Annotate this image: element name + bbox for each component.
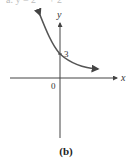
origin-label: 0: [51, 81, 56, 91]
figure-caption: (b): [0, 145, 132, 157]
x-axis-label: x: [120, 72, 126, 83]
exponential-curve: [40, 15, 98, 69]
y-intercept-label: 3: [64, 49, 69, 59]
graph: y x 0 3: [0, 0, 132, 164]
y-axis-label: y: [56, 9, 62, 20]
